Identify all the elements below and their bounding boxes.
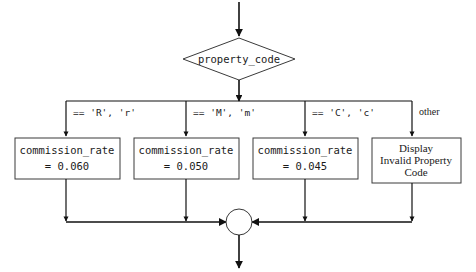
branch-label-2: == 'M', 'm' — [193, 107, 256, 118]
process-node-2-line1: commission_rate — [139, 144, 234, 157]
process-node-commission-050[interactable]: commission_rate = 0.050 — [134, 138, 239, 179]
process-node-1-line2: = 0.060 — [45, 160, 89, 172]
branch-label-3: == 'C', 'c' — [312, 107, 375, 118]
process-node-display-invalid[interactable]: Display Invalid Property Code — [372, 138, 461, 183]
process-node-4-line3: Code — [404, 166, 427, 178]
process-node-3-line1: commission_rate — [258, 144, 353, 157]
process-node-commission-045[interactable]: commission_rate = 0.045 — [253, 138, 358, 179]
process-node-4-line2: Invalid Property — [380, 154, 452, 166]
process-node-4-line1: Display — [399, 142, 434, 154]
process-node-2-line2: = 0.050 — [164, 160, 208, 172]
process-node-1-line1: commission_rate — [20, 144, 115, 157]
branch-label-1: == 'R', 'r' — [73, 107, 136, 118]
branch-label-4: other — [419, 106, 440, 117]
process-node-3-line2: = 0.045 — [283, 160, 327, 172]
decision-node-property-code[interactable]: property_code — [183, 38, 295, 80]
process-node-commission-060[interactable]: commission_rate = 0.060 — [15, 138, 120, 179]
flowchart-canvas: property_code == 'R', 'r' == 'M', 'm' ==… — [0, 0, 476, 272]
flowchart-svg: property_code == 'R', 'r' == 'M', 'm' ==… — [0, 0, 476, 272]
merge-node[interactable] — [226, 209, 252, 235]
decision-node-label: property_code — [198, 53, 280, 66]
